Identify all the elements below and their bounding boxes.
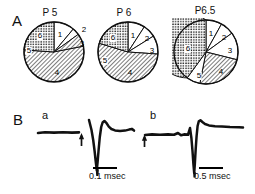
trace-b-baseline: [145, 133, 188, 135]
pie-p6-label-4: 4: [128, 69, 132, 77]
trace-a-baseline: [38, 132, 79, 133]
pie-title-p65: P6.5: [176, 6, 234, 16]
scalebar-label-a: 0.1 msec: [89, 172, 126, 181]
panel-letter-b: B: [13, 112, 23, 127]
pie-chart-p6[interactable]: 1 2 3 4 5 6: [96, 20, 160, 84]
pie-p5-label-4: 4: [55, 69, 59, 77]
pie-p65-label-1: 1: [209, 30, 213, 38]
pie-p6-label-1: 1: [131, 32, 135, 40]
pie-p65-label-4: 4: [219, 68, 223, 76]
pie-title-p5: P 5: [24, 8, 76, 18]
pie-p6-label-5: 5: [102, 57, 108, 65]
pie-p6-label-3: 3: [150, 47, 154, 55]
pie-p6-label-6: 6: [110, 34, 116, 42]
trace-a-waveform: [89, 120, 132, 170]
scalebar-label-b: 0.5 msec: [194, 172, 231, 181]
pie-p5-label-1: 1: [58, 31, 62, 39]
stimulus-arrow-b: [142, 135, 147, 148]
pie-p65-label-5: 5: [196, 72, 202, 80]
figure-panel-container: A P 5 1 2 3 4 5 6 P 6: [0, 0, 255, 194]
pie-p65-label-3: 3: [228, 47, 232, 55]
scalebar-line-b: [199, 167, 223, 169]
pie-p5-label-2: 2: [82, 26, 86, 34]
pie-chart-p5[interactable]: 1 2 3 4 5 6: [22, 20, 86, 84]
pie-p6-label-2: 2: [145, 35, 149, 43]
pie-title-p6: P 6: [98, 8, 150, 18]
pie-p5-label-6: 6: [37, 32, 43, 40]
scalebar-line-a: [93, 167, 117, 169]
trace-b-waveform: [188, 120, 243, 173]
trace-a-tail: [132, 129, 134, 131]
panel-letter-a: A: [12, 13, 22, 28]
pie-p65-label-2: 2: [222, 34, 226, 42]
pie-p5-label-5: 5: [26, 47, 32, 55]
pie-p5-label-3: 3: [80, 40, 84, 48]
pie-p65-label-6: 6: [185, 45, 191, 53]
pie-chart-p65[interactable]: 1 2 3 4 5 6: [172, 18, 240, 86]
stimulus-arrow-a: [79, 133, 84, 146]
